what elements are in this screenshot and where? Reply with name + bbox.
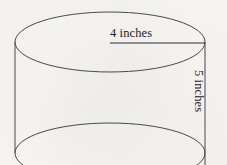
height-label: 5 inches (192, 70, 205, 112)
radius-label: 4 inches (110, 27, 152, 40)
top-ellipse (15, 12, 205, 72)
cylinder-figure: 4 inches 5 inches (0, 0, 227, 165)
